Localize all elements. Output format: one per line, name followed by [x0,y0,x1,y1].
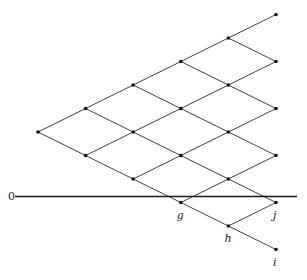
lattice-edge [228,132,276,156]
lattice-edge [86,132,134,156]
lattice-node [274,107,278,111]
lattice-node [84,154,88,158]
lattice-node [131,177,135,181]
node-labels: ghji [177,209,277,269]
lattice-edge [228,203,276,227]
lattice-diagram: 0 ghji [0,0,307,280]
lattice-edge [181,85,229,109]
lattice-edge [133,109,181,133]
lattice-edge [133,132,181,156]
lattice-edge [181,132,229,156]
node-label-g: g [177,209,184,222]
lattice-edge [181,156,229,180]
zero-axis-label: 0 [8,190,15,203]
lattice-edge [86,85,134,109]
lattice-node [131,83,135,87]
lattice-edge [86,109,134,133]
node-label-h: h [224,232,231,245]
lattice-edge [133,62,181,86]
lattice-node [84,107,88,111]
lattice-edge [228,109,276,133]
lattice-node [227,177,231,181]
lattice-node [179,60,183,64]
lattice-node [179,154,183,158]
lattice-node [274,60,278,64]
node-label-i: i [273,256,277,269]
lattice-node [274,248,278,252]
lattice-edge [181,109,229,133]
lattice-edge [228,15,276,39]
lattice-node [227,36,231,40]
lattice-node [227,224,231,228]
lattice-edge [181,179,229,203]
lattice-edge [133,85,181,109]
lattice-edge [228,226,276,250]
lattice-node [227,130,231,134]
lattice-node [274,154,278,158]
lattice-nodes [36,13,278,252]
lattice-edge [38,132,86,156]
lattice-edge [181,203,229,227]
lattice-edge [228,156,276,180]
lattice-edge [133,179,181,203]
lattice-node [36,130,40,134]
lattice-edge [133,156,181,180]
lattice-node [179,201,183,205]
node-label-j: j [270,209,277,222]
lattice-edge [38,109,86,133]
lattice-node [179,107,183,111]
lattice-edge [181,62,229,86]
lattice-node [274,201,278,205]
lattice-edge [181,38,229,62]
lattice-edge [228,62,276,86]
lattice-edge [228,85,276,109]
lattice-edges [38,15,276,250]
lattice-edge [228,179,276,203]
lattice-edge [228,38,276,62]
lattice-node [131,130,135,134]
lattice-node [274,13,278,17]
lattice-edge [86,156,134,180]
lattice-node [227,83,231,87]
